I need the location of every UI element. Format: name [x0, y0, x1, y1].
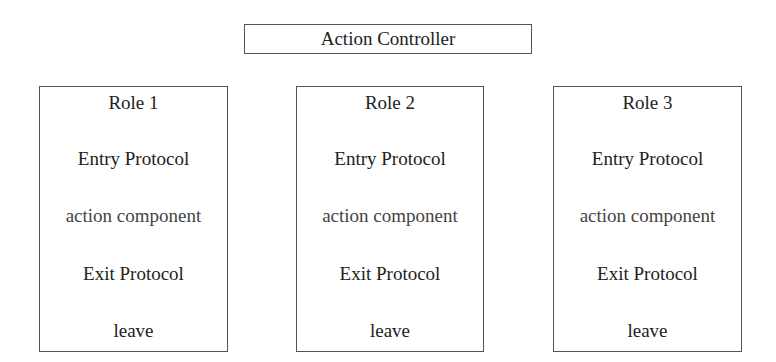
leave: leave: [554, 320, 741, 342]
role-title: Role 3: [554, 92, 741, 114]
exit-protocol: Exit Protocol: [40, 263, 227, 285]
entry-protocol: Entry Protocol: [297, 148, 483, 170]
action-component: action component: [40, 205, 227, 227]
action-controller-box: Action Controller: [244, 24, 532, 54]
role-1-box: Role 1 Entry Protocol action component E…: [39, 86, 228, 352]
role-3-box: Role 3 Entry Protocol action component E…: [553, 86, 742, 352]
leave: leave: [297, 320, 483, 342]
leave: leave: [40, 320, 227, 342]
role-2-box: Role 2 Entry Protocol action component E…: [296, 86, 484, 352]
entry-protocol: Entry Protocol: [554, 148, 741, 170]
role-title: Role 1: [40, 92, 227, 114]
exit-protocol: Exit Protocol: [554, 263, 741, 285]
action-component: action component: [297, 205, 483, 227]
role-title: Role 2: [297, 92, 483, 114]
action-component: action component: [554, 205, 741, 227]
exit-protocol: Exit Protocol: [297, 263, 483, 285]
action-controller-label: Action Controller: [321, 28, 456, 50]
entry-protocol: Entry Protocol: [40, 148, 227, 170]
